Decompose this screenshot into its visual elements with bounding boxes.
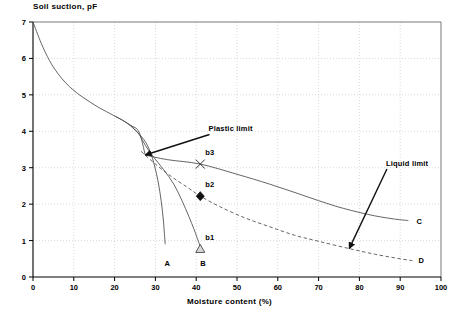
x-tick-label: 70 — [314, 283, 322, 292]
annotation-label-liquid-limit: Liquid limit — [386, 159, 428, 168]
x-tick-label: 40 — [192, 283, 200, 292]
marker-label-b1: b1 — [205, 233, 214, 242]
series-label-D: D — [419, 256, 424, 265]
x-tick-label: 0 — [31, 283, 35, 292]
annotation-arrow-plastic-limit — [145, 134, 209, 155]
y-tick-label: 4 — [0, 127, 26, 136]
y-tick-label: 3 — [0, 163, 26, 172]
x-tick-label: 10 — [70, 283, 78, 292]
x-tick-label: 100 — [435, 283, 448, 292]
marker-b2 — [196, 192, 204, 201]
series-label-A: A — [164, 259, 169, 268]
y-tick-label: 7 — [0, 18, 26, 27]
x-tick-label: 80 — [355, 283, 363, 292]
marker-label-b2: b2 — [205, 180, 214, 189]
y-tick-label: 0 — [0, 273, 26, 282]
series-label-B: B — [200, 259, 205, 268]
annotation-label-plastic-limit: Plastic limit — [208, 124, 252, 133]
chart-figure: Soil suction, pF Moisture content (%) 01… — [0, 0, 459, 320]
annotation-arrow-liquid-limit — [349, 169, 387, 249]
marker-label-b3: b3 — [205, 148, 214, 157]
x-tick-label: 20 — [110, 283, 118, 292]
x-tick-label: 60 — [274, 283, 282, 292]
y-tick-label: 5 — [0, 90, 26, 99]
y-tick-label: 2 — [0, 200, 26, 209]
x-tick-label: 50 — [233, 283, 241, 292]
y-tick-label: 1 — [0, 236, 26, 245]
marker-b1 — [196, 244, 205, 252]
x-tick-label: 90 — [396, 283, 404, 292]
series-main-drying-curve — [33, 22, 145, 155]
y-tick-label: 6 — [0, 54, 26, 63]
series-label-C: C — [417, 217, 422, 226]
x-tick-label: 30 — [151, 283, 159, 292]
series-curve-B — [131, 125, 200, 246]
series-curve-C — [145, 155, 408, 221]
